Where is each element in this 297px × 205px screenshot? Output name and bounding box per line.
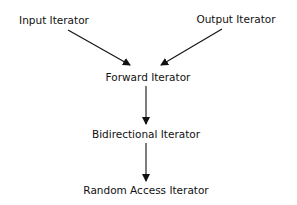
edge-input-to-forward: [68, 30, 130, 65]
node-bidirectional-iterator: Bidirectional Iterator: [92, 128, 200, 140]
node-forward-iterator: Forward Iterator: [106, 71, 191, 83]
node-random-access-iterator: Random Access Iterator: [83, 184, 208, 196]
edges-layer: [0, 0, 297, 205]
node-input-iterator: Input Iterator: [19, 14, 89, 26]
node-output-iterator: Output Iterator: [196, 13, 275, 25]
edge-output-to-forward: [161, 29, 222, 65]
